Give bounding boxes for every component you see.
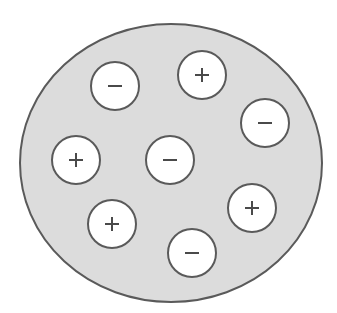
positive-charge — [228, 184, 276, 232]
negative-charge — [91, 62, 139, 110]
negative-charge — [241, 99, 289, 147]
negative-charge — [168, 229, 216, 277]
positive-charge — [52, 136, 100, 184]
charge-sphere-diagram — [0, 0, 337, 313]
positive-charge — [88, 200, 136, 248]
positive-charge — [178, 51, 226, 99]
negative-charge — [146, 136, 194, 184]
